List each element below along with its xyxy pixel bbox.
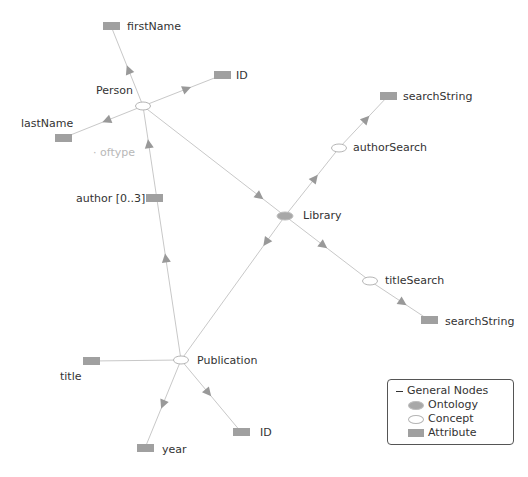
node-label-searchString2: searchString xyxy=(445,315,514,328)
legend-group-general-nodes[interactable]: General Nodes xyxy=(396,384,488,397)
node-attribute-year[interactable] xyxy=(137,444,154,452)
node-label-personID: ID xyxy=(236,69,248,82)
node-attribute-searchString2[interactable] xyxy=(421,316,438,324)
legend-item-label: Ontology xyxy=(428,398,478,411)
node-label-library: Library xyxy=(303,209,341,222)
node-label-authorSearch: authorSearch xyxy=(353,141,427,154)
arrow-icon xyxy=(260,236,273,249)
legend-item-concept[interactable]: Concept xyxy=(408,412,474,425)
arrow-icon xyxy=(202,386,215,399)
node-attribute-pubID[interactable] xyxy=(233,428,250,436)
arrow-icon xyxy=(101,115,113,127)
attribute-icon xyxy=(408,429,424,437)
edge-library-authorSearch[interactable] xyxy=(285,148,339,216)
node-concept-titleSearch[interactable] xyxy=(363,277,378,285)
node-ontology-library[interactable] xyxy=(277,212,293,220)
node-label-titleSearch: titleSearch xyxy=(385,274,444,287)
node-label-firstName: firstName xyxy=(127,20,181,33)
legend-title: General Nodes xyxy=(407,384,488,397)
node-label-publication: Publication xyxy=(197,354,257,367)
legend-item-label: Attribute xyxy=(428,426,477,439)
node-concept-publication[interactable] xyxy=(174,356,189,364)
node-attribute-lastName[interactable] xyxy=(55,134,72,142)
arrow-icon xyxy=(181,83,193,95)
node-attribute-title[interactable] xyxy=(83,357,100,365)
edge-publication-title[interactable] xyxy=(91,360,181,361)
node-label-person: Person xyxy=(96,84,133,97)
ontology-icon xyxy=(408,401,424,410)
node-attribute-searchString1[interactable] xyxy=(380,92,397,100)
edge-person-library[interactable] xyxy=(143,106,285,216)
collapse-icon[interactable] xyxy=(396,391,403,392)
node-label-title: title xyxy=(60,370,82,383)
node-attribute-firstName[interactable] xyxy=(103,22,120,30)
node-attribute-author[interactable] xyxy=(146,194,163,202)
arrow-icon xyxy=(157,399,169,411)
edge-label: · oftype xyxy=(93,146,135,159)
arrow-icon xyxy=(309,172,322,185)
arrow-icon xyxy=(254,190,267,203)
edge-person-personID[interactable] xyxy=(143,75,222,106)
node-label-author: author [0..3] xyxy=(76,192,145,205)
edge-library-publication[interactable] xyxy=(181,216,285,360)
concept-icon xyxy=(408,415,424,424)
edge-library-titleSearch[interactable] xyxy=(285,216,370,281)
node-concept-authorSearch[interactable] xyxy=(332,144,347,152)
node-attribute-personID[interactable] xyxy=(214,71,231,79)
node-label-year: year xyxy=(162,443,187,456)
arrow-icon xyxy=(144,138,154,148)
legend-item-ontology[interactable]: Ontology xyxy=(408,398,478,411)
legend-box: General Nodes Ontology Concept Attribute xyxy=(387,379,514,445)
arrow-icon xyxy=(123,64,135,76)
legend-item-attribute[interactable]: Attribute xyxy=(408,426,477,439)
legend-item-label: Concept xyxy=(428,412,474,425)
arrow-icon xyxy=(161,253,171,263)
node-label-pubID: ID xyxy=(260,426,272,439)
arrow-icon xyxy=(317,239,330,252)
arrow-icon xyxy=(397,296,409,308)
node-label-lastName: lastName xyxy=(21,117,73,130)
node-label-searchString1: searchString xyxy=(403,90,472,103)
node-concept-person[interactable] xyxy=(136,102,151,110)
